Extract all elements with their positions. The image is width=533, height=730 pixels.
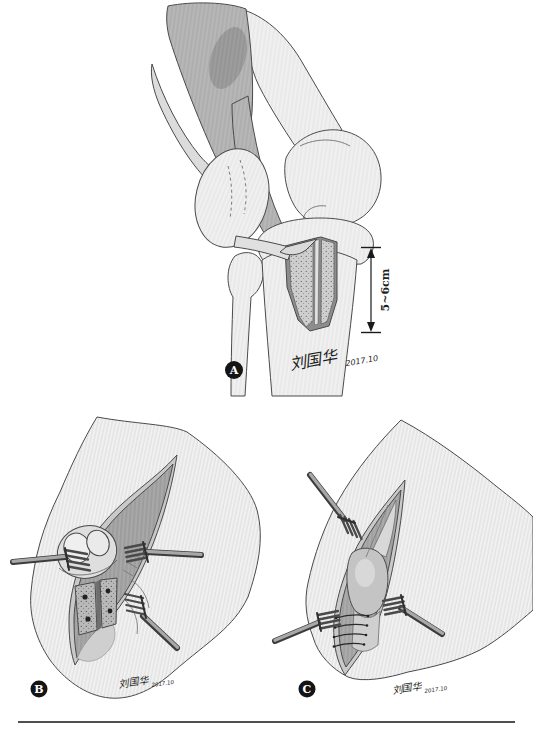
bone-block-right: [100, 578, 117, 628]
arrow-down-icon: [367, 322, 375, 332]
signature-date: 2017.10: [345, 354, 379, 369]
panel-c-illustration: C 刘国华 2017.10: [268, 405, 533, 715]
measurement-label: 5~6cm: [379, 268, 392, 311]
signature-name: 刘国华: [391, 680, 423, 695]
panel-b-illustration: B 刘国华 2017.10: [5, 400, 275, 715]
panel-a-badge-label: A: [229, 364, 239, 377]
panel-c-signature: 刘国华 2017.10: [391, 677, 448, 699]
panel-c-badge-label: C: [303, 683, 312, 696]
figure-page: 5~6cm A 刘国华 2017.10: [0, 0, 533, 730]
bone-block-left: [75, 582, 97, 635]
signature-date: 2017.10: [424, 685, 448, 694]
panel-b: B 刘国华 2017.10: [5, 400, 275, 715]
panel-c: C 刘国华 2017.10: [268, 405, 533, 715]
bottom-rule: [18, 721, 515, 723]
panel-a-badge: A: [225, 361, 243, 379]
panel-a-illustration: 5~6cm A 刘国华 2017.10: [140, 0, 430, 398]
panel-c-badge: C: [299, 681, 316, 698]
panel-a: 5~6cm A 刘国华 2017.10: [140, 0, 430, 398]
panel-b-badge: B: [31, 681, 48, 698]
window-gap: [315, 240, 320, 326]
panel-b-badge-label: B: [34, 683, 43, 696]
